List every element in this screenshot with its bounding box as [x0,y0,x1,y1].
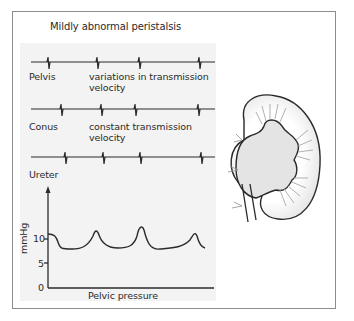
conus-tracing [31,104,215,116]
y-axis-arrow-icon [46,186,51,193]
diagram-graphics [0,0,354,321]
pressure-curve [48,227,205,249]
kidney-illustration [228,95,320,222]
ureter-tracing [31,152,215,164]
chart-axes [44,190,214,288]
pelvis-tracing [31,57,215,69]
